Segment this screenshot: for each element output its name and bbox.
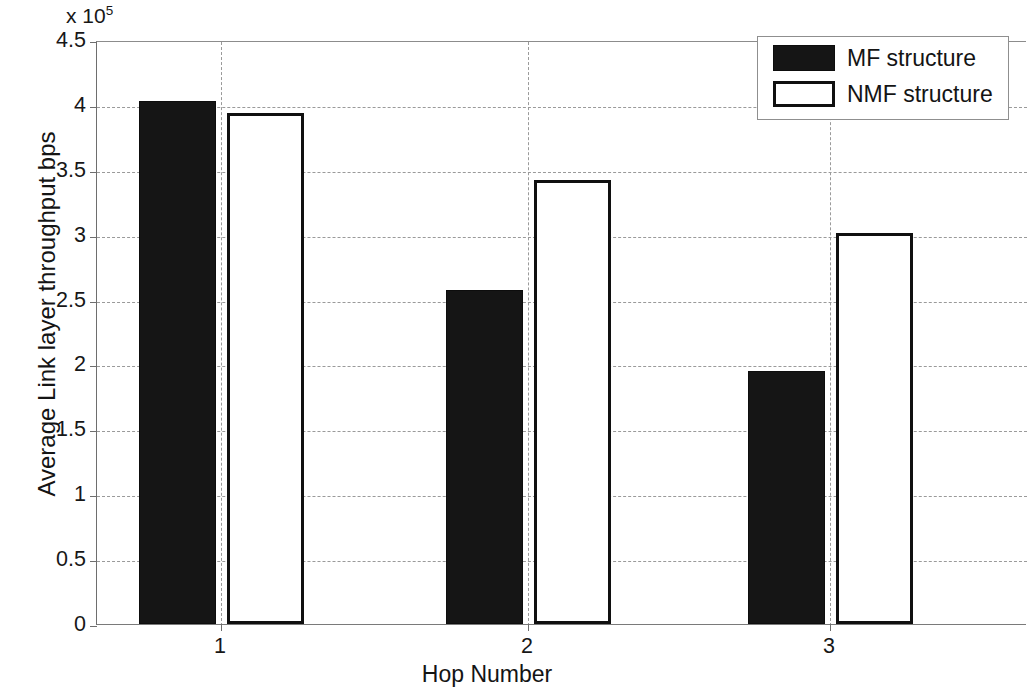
legend-label-nmf: NMF structure [847,81,993,107]
y-tick-mark [90,107,97,108]
x-tick-mark [528,624,529,631]
vertical-gridline [830,42,831,626]
y-axis-exponent-mantissa: x 10 [66,4,106,27]
legend-item-nmf: NMF structure [758,79,1009,113]
y-tick-mark [90,172,97,173]
x-tick-mark [221,624,222,631]
vertical-gridline [221,42,222,626]
x-tick-mark [830,624,831,631]
x-axis-title: Hop Number [0,661,974,687]
legend-swatch-mf-icon [773,45,835,71]
plot-area [96,41,1026,625]
legend-label-mf: MF structure [847,45,976,71]
y-tick-mark [90,626,97,627]
y-axis-exponent-power: 5 [106,3,114,18]
y-axis-title: Average Link layer throughput bps [33,4,61,624]
y-tick-mark [90,366,97,367]
y-tick-mark [90,431,97,432]
bar-mf-hop-3 [748,371,825,624]
y-tick-mark [90,237,97,238]
vertical-gridline [528,42,529,626]
y-tick-mark [90,302,97,303]
bar-mf-hop-2 [446,290,523,624]
legend: MF structure NMF structure [757,36,1009,120]
y-tick-mark [90,496,97,497]
y-tick-mark [90,561,97,562]
y-tick-mark [90,42,97,43]
bar-nmf-hop-3 [836,233,913,624]
bar-nmf-hop-2 [534,180,611,624]
x-tick-label: 2 [487,634,567,659]
x-tick-label: 1 [180,634,260,659]
legend-item-mf: MF structure [758,41,1009,75]
bar-nmf-hop-1 [227,113,304,624]
legend-swatch-nmf-icon [773,81,835,107]
x-tick-label: 3 [789,634,869,659]
bar-mf-hop-1 [139,101,216,624]
y-axis-exponent-label: x 105 [66,4,113,28]
